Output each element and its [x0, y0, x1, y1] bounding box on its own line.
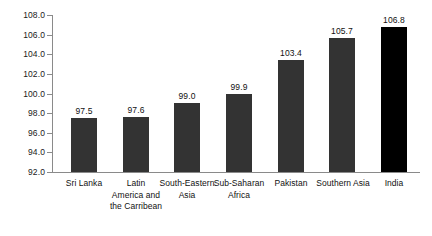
bar-value-label: 97.6 [106, 106, 166, 115]
category-label-line: Sub-Saharan [209, 178, 269, 190]
bar-value-label: 105.7 [312, 27, 372, 36]
bar [329, 38, 355, 172]
category-label-line: Pakistan [261, 178, 321, 190]
bar [278, 60, 304, 172]
bar-value-label: 99.0 [157, 92, 217, 101]
bar [71, 118, 97, 172]
x-axis-category-label: Sri Lanka [54, 178, 114, 190]
bar-value-label: 97.5 [54, 107, 114, 116]
x-axis-category-label: Pakistan [261, 178, 321, 190]
bar-value-label: 106.8 [364, 16, 424, 25]
bar-value-label: 99.9 [209, 83, 269, 92]
bar [123, 117, 149, 172]
category-label-line: South-Eastern [157, 178, 217, 190]
x-axis-category-label: South-EasternAsia [157, 178, 217, 201]
category-label-line: Sri Lanka [54, 178, 114, 190]
category-label-line: Africa [209, 190, 269, 202]
category-label-line: India [364, 178, 424, 190]
category-label-line: Asia [157, 190, 217, 202]
bars-and-category-labels: 97.5Sri Lanka97.6LatinAmerica andthe Car… [0, 0, 432, 236]
x-axis-category-label: India [364, 178, 424, 190]
x-axis-category-label: Sub-SaharanAfrica [209, 178, 269, 201]
bar [174, 103, 200, 172]
bar-value-label: 103.4 [261, 49, 321, 58]
category-label-line: the Carribean [106, 201, 166, 213]
bar [226, 94, 252, 172]
bar-chart: 92.094.096.098.0100.0102.0104.0106.0108.… [0, 0, 432, 236]
bar [381, 27, 407, 172]
